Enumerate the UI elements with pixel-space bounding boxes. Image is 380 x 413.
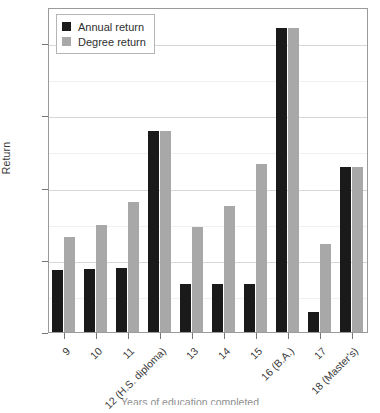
- bar-degree-return: [96, 225, 107, 332]
- x-axis-tick-mark: [128, 333, 129, 339]
- bar-annual-return: [148, 131, 159, 333]
- bar-group: [241, 9, 273, 332]
- x-axis-tick-mark: [192, 333, 193, 339]
- bar-degree-return: [160, 131, 171, 333]
- y-axis-tick-mark: [42, 333, 48, 334]
- bar-annual-return: [52, 270, 63, 332]
- bar-group: [81, 9, 113, 332]
- plot-area: [48, 8, 368, 333]
- x-axis-tick-mark: [64, 333, 65, 339]
- bar-annual-return: [340, 167, 351, 332]
- legend-swatch-annual-return: [62, 22, 71, 31]
- bar-degree-return: [192, 227, 203, 332]
- x-axis-tick-mark: [160, 333, 161, 339]
- y-axis-tick-mark: [42, 189, 48, 190]
- bar-degree-return: [288, 28, 299, 332]
- chart-legend: Annual return Degree return: [56, 14, 155, 54]
- legend-swatch-degree-return: [62, 37, 71, 46]
- bar-group: [209, 9, 241, 332]
- bar-group: [273, 9, 305, 332]
- bar-group: [145, 9, 177, 332]
- bar-annual-return: [84, 269, 95, 332]
- bar-annual-return: [244, 284, 255, 332]
- y-axis-tick-mark: [42, 261, 48, 262]
- bar-group: [177, 9, 209, 332]
- bar-annual-return: [180, 284, 191, 332]
- bar-group: [113, 9, 145, 332]
- legend-item: Annual return: [62, 19, 146, 34]
- bar-degree-return: [224, 206, 235, 332]
- x-axis-tick-mark: [352, 333, 353, 339]
- y-axis-title: Return: [0, 128, 16, 188]
- bar-degree-return: [128, 202, 139, 332]
- x-axis-tick-mark: [224, 333, 225, 339]
- bar-degree-return: [64, 237, 75, 332]
- bar-group: [337, 9, 369, 332]
- x-axis-tick-mark: [320, 333, 321, 339]
- legend-item: Degree return: [62, 34, 146, 49]
- bar-group: [305, 9, 337, 332]
- x-axis-tick-mark: [96, 333, 97, 339]
- legend-label: Degree return: [78, 36, 146, 48]
- bar-degree-return: [256, 164, 267, 332]
- bar-annual-return: [308, 312, 319, 332]
- bar-annual-return: [212, 284, 223, 332]
- bar-group: [49, 9, 81, 332]
- x-axis-tick-mark: [288, 333, 289, 339]
- bar-degree-return: [320, 244, 331, 332]
- bar-annual-return: [116, 268, 127, 332]
- bar-annual-return: [276, 28, 287, 332]
- y-axis-tick-mark: [42, 44, 48, 45]
- y-axis-tick-mark: [42, 116, 48, 117]
- legend-label: Annual return: [78, 21, 144, 33]
- bar-degree-return: [352, 167, 363, 332]
- x-axis-tick-mark: [256, 333, 257, 339]
